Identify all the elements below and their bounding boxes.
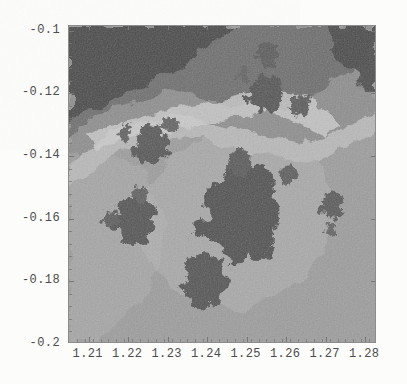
y-tick-minor — [69, 319, 72, 320]
x-tick-minor — [180, 339, 181, 342]
x-tick-major-top — [128, 26, 129, 30]
y-tick-label: -0.16 — [22, 211, 60, 225]
y-tick-major — [69, 156, 74, 157]
x-tick-label: 1.22 — [112, 347, 142, 361]
y-tick-label: -0.14 — [22, 148, 60, 162]
x-tick-minor — [274, 339, 275, 342]
plot-frame — [68, 25, 376, 343]
x-tick-major-top — [326, 26, 327, 30]
x-tick-minor — [219, 339, 220, 342]
x-tick-minor — [85, 339, 86, 342]
x-tick-minor — [322, 339, 323, 342]
y-tick-minor — [69, 331, 72, 332]
x-tick-major-top — [247, 26, 248, 30]
x-tick-minor — [164, 339, 165, 342]
x-tick-major-top — [286, 26, 287, 30]
x-tick-major — [247, 337, 248, 342]
x-tick-minor — [345, 339, 346, 342]
x-tick-minor — [132, 339, 133, 342]
x-tick-minor — [298, 339, 299, 342]
x-tick-minor — [282, 339, 283, 342]
x-tick-minor — [187, 339, 188, 342]
x-tick-minor — [227, 339, 228, 342]
y-tick-label: -0.12 — [22, 85, 60, 99]
x-tick-minor — [353, 339, 354, 342]
y-tick-minor — [69, 106, 72, 107]
y-tick-major — [69, 219, 74, 220]
x-tick-minor — [124, 339, 125, 342]
y-tick-major-right — [371, 93, 375, 94]
x-tick-minor — [251, 339, 252, 342]
y-tick-minor — [69, 143, 72, 144]
y-tick-major-right — [371, 281, 375, 282]
y-tick-minor — [69, 294, 72, 295]
x-tick-minor — [116, 339, 117, 342]
y-tick-minor — [69, 68, 72, 69]
x-tick-label: 1.27 — [309, 347, 339, 361]
y-tick-minor — [69, 181, 72, 182]
x-tick-minor — [259, 339, 260, 342]
x-tick-minor — [156, 339, 157, 342]
y-tick-major — [69, 93, 74, 94]
x-tick-major-top — [365, 26, 366, 30]
y-tick-label: -0.2 — [30, 336, 60, 350]
x-tick-major — [365, 337, 366, 342]
x-tick-major — [207, 337, 208, 342]
y-tick-minor — [69, 43, 72, 44]
y-tick-minor — [69, 206, 72, 207]
x-tick-label: 1.25 — [230, 347, 260, 361]
x-tick-label: 1.28 — [349, 347, 379, 361]
x-tick-minor — [203, 339, 204, 342]
x-tick-major — [168, 337, 169, 342]
x-tick-major-top — [89, 26, 90, 30]
x-tick-minor — [77, 339, 78, 342]
y-tick-minor — [69, 269, 72, 270]
x-tick-minor — [235, 339, 236, 342]
y-tick-minor — [69, 194, 72, 195]
x-tick-minor — [306, 339, 307, 342]
x-tick-minor — [243, 339, 244, 342]
x-tick-major-top — [207, 26, 208, 30]
y-tick-label: -0.1 — [30, 23, 60, 37]
x-tick-minor — [195, 339, 196, 342]
x-tick-minor — [172, 339, 173, 342]
x-tick-minor — [290, 339, 291, 342]
x-tick-major — [89, 337, 90, 342]
y-tick-major-right — [371, 156, 375, 157]
y-tick-major-right — [371, 219, 375, 220]
x-tick-label: 1.21 — [73, 347, 103, 361]
y-tick-label: -0.18 — [22, 273, 60, 287]
x-tick-label: 1.26 — [270, 347, 300, 361]
y-tick-minor — [69, 256, 72, 257]
y-tick-minor — [69, 56, 72, 57]
x-tick-major — [128, 337, 129, 342]
x-tick-minor — [314, 339, 315, 342]
y-tick-minor — [69, 131, 72, 132]
y-tick-major — [69, 31, 74, 32]
x-tick-major-top — [168, 26, 169, 30]
x-tick-minor — [369, 339, 370, 342]
x-tick-minor — [148, 339, 149, 342]
x-tick-minor — [211, 339, 212, 342]
y-tick-minor — [69, 169, 72, 170]
y-tick-minor — [69, 118, 72, 119]
plot-grain — [69, 26, 375, 342]
x-tick-minor — [338, 339, 339, 342]
y-tick-major — [69, 281, 74, 282]
x-tick-major — [326, 337, 327, 342]
figure-page: -0.1-0.12-0.14-0.16-0.18-0.21.211.221.23… — [0, 0, 407, 384]
y-tick-minor — [69, 244, 72, 245]
x-tick-major — [286, 337, 287, 342]
x-tick-label: 1.23 — [152, 347, 182, 361]
x-tick-minor — [361, 339, 362, 342]
x-tick-minor — [330, 339, 331, 342]
y-tick-minor — [69, 306, 72, 307]
density-plot-canvas — [69, 26, 375, 342]
x-tick-minor — [93, 339, 94, 342]
x-tick-label: 1.24 — [191, 347, 221, 361]
x-tick-minor — [266, 339, 267, 342]
x-tick-minor — [101, 339, 102, 342]
x-tick-minor — [108, 339, 109, 342]
y-tick-minor — [69, 81, 72, 82]
x-tick-minor — [140, 339, 141, 342]
